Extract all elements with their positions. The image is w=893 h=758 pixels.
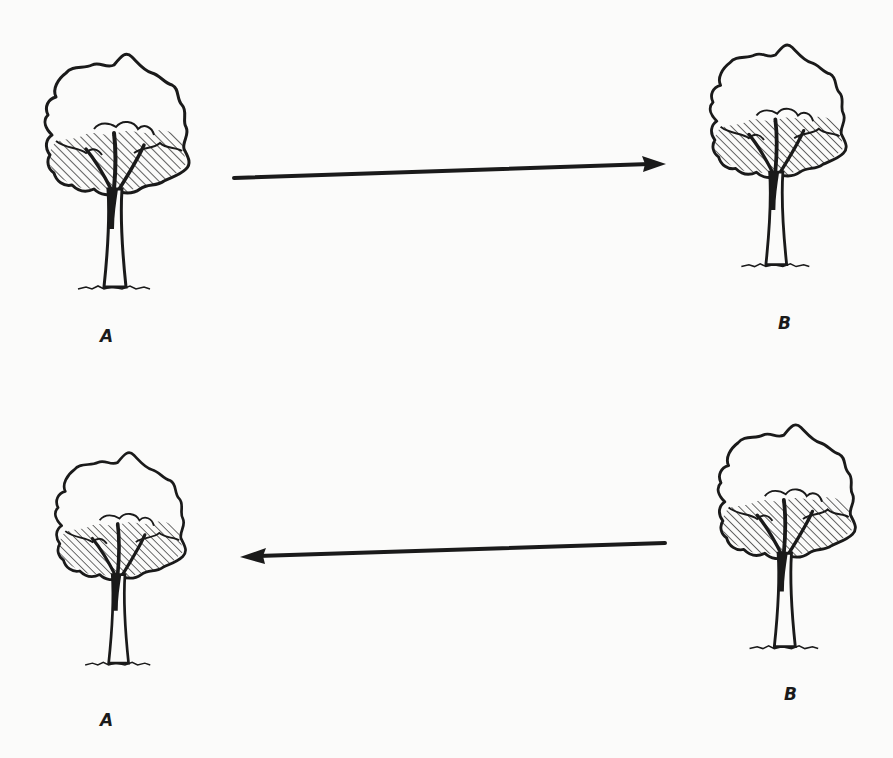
arrow-left-icon (240, 543, 665, 564)
arrows-layer (0, 0, 893, 758)
arrow-right-icon (234, 156, 666, 178)
